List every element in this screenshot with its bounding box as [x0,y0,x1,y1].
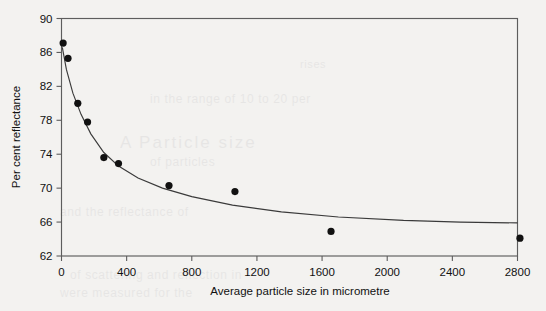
data-point [165,182,172,189]
x-tick-label-2000: 2000 [374,266,400,278]
x-axis-ticks: 040080012001600200024002800 [58,256,530,278]
data-point [231,188,238,195]
y-axis-title: Per cent reflectance [10,86,22,188]
y-tick-label-82: 82 [40,80,53,92]
data-point-group [60,40,524,242]
y-tick-label-62: 62 [40,250,53,262]
data-point [84,118,91,125]
y-tick-label-66: 66 [40,216,53,228]
x-tick-label-1200: 1200 [244,266,270,278]
y-tick-label-86: 86 [40,46,53,58]
chart-figure: 6266707478828690 04008001200160020002400… [0,0,546,311]
data-point [60,40,67,47]
y-axis-ticks: 6266707478828690 [40,13,62,263]
x-axis-title: Average particle size in micrometre [210,285,389,297]
x-tick-label-400: 400 [117,266,136,278]
x-tick-label-2400: 2400 [440,266,466,278]
data-point [74,100,81,107]
x-tick-label-2800: 2800 [505,266,531,278]
y-tick-label-78: 78 [40,114,53,126]
fitted-curve [62,47,517,223]
y-tick-label-90: 90 [40,13,53,25]
x-tick-label-800: 800 [182,266,201,278]
data-point [64,55,71,62]
y-tick-label-74: 74 [40,148,53,160]
data-point [516,235,523,242]
plot-frame [62,19,518,257]
data-point [100,154,107,161]
y-tick-label-70: 70 [40,182,53,194]
scatter-plot: 6266707478828690 04008001200160020002400… [0,0,546,311]
x-tick-label-0: 0 [58,266,64,278]
x-tick-label-1600: 1600 [309,266,335,278]
data-point [115,160,122,167]
data-point [327,228,334,235]
